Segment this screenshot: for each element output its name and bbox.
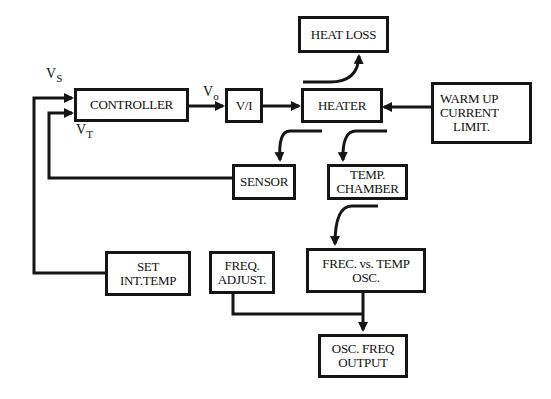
warm-up-current-limit-block: WARM UP CURRENT LIMIT. [431, 82, 532, 144]
wire-heater-to-chamber [343, 131, 387, 160]
wire-set-temp-to-controller [34, 98, 105, 273]
wire-chamber-to-osc [335, 206, 378, 244]
freq-vs-temp-osc-line-2: OSC. [352, 271, 379, 285]
sensor-text: SENSOR [240, 175, 288, 189]
sensor-block: SENSOR [232, 164, 296, 200]
heater-text: HEATER [318, 99, 366, 113]
vo-label: Vo [203, 84, 219, 102]
wire-adjust-to-output [233, 293, 363, 314]
warm-up-line-2: CURRENT [440, 106, 499, 120]
osc-freq-output-block: OSC. FREQ OUTPUT [318, 334, 408, 378]
warm-up-line-3: LIMIT. [440, 120, 490, 134]
temp-chamber-block: TEMP. CHAMBER [327, 164, 408, 200]
heater-block: HEATER [301, 88, 383, 123]
warm-up-line-1: WARM UP [440, 92, 498, 106]
osc-freq-output-line-1: OSC. FREQ [332, 342, 394, 356]
controller-block: CONTROLLER [74, 88, 189, 122]
vs-label: VS [46, 66, 62, 84]
freq-adjust-block: FREQ. ADJUST. [209, 251, 275, 294]
vt-label: VT [76, 122, 93, 140]
heat-loss-block: HEAT LOSS [298, 16, 389, 53]
temp-chamber-line-1: TEMP. [350, 168, 385, 182]
vt-sub: T [86, 128, 93, 140]
set-int-temp-line-2: INT.TEMP [120, 274, 176, 288]
temp-chamber-line-2: CHAMBER [336, 182, 398, 196]
wire-heater-to-heatloss [303, 56, 359, 82]
freq-vs-temp-osc-block: FREC. vs. TEMP OSC. [306, 248, 426, 293]
vt-main: V [76, 122, 86, 137]
vo-sub: o [213, 90, 219, 102]
wire-heater-to-sensor [280, 131, 322, 160]
v-to-i-block: V/I [225, 88, 263, 123]
set-int-temp-line-1: SET [137, 260, 159, 274]
set-int-temp-block: SET INT.TEMP [105, 251, 191, 296]
heat-loss-text: HEAT LOSS [311, 28, 376, 42]
freq-vs-temp-osc-line-1: FREC. vs. TEMP [322, 257, 409, 271]
vs-sub: S [56, 72, 62, 84]
controller-text: CONTROLLER [90, 98, 173, 112]
v-to-i-text: V/I [236, 99, 252, 113]
vs-main: V [46, 66, 56, 81]
vo-main: V [203, 84, 213, 99]
freq-adjust-line-2: ADJUST. [218, 273, 267, 287]
freq-adjust-line-1: FREQ. [225, 259, 260, 273]
osc-freq-output-line-2: OUTPUT [338, 356, 387, 370]
